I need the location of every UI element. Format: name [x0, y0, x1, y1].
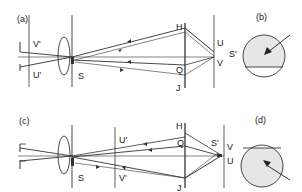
label-s: S	[78, 173, 84, 183]
label-u: U	[217, 38, 224, 48]
ray	[20, 52, 72, 57]
ray	[20, 156, 72, 161]
ray	[185, 28, 214, 52]
arrow-icon	[148, 148, 152, 152]
ray	[72, 157, 185, 178]
label-h: H	[176, 121, 183, 131]
label-u-prime: U'	[33, 70, 41, 80]
ray	[75, 163, 185, 178]
label-u-prime: U'	[119, 135, 127, 145]
label-q: Q	[176, 65, 183, 75]
ray	[72, 146, 185, 157]
label-v: V	[217, 58, 223, 68]
label-u: U	[227, 156, 234, 166]
panel-a: (a) V' U' S H Q J	[17, 14, 237, 93]
panel-a-label: (a)	[17, 14, 28, 24]
ray	[20, 148, 72, 156]
source-s	[71, 158, 74, 166]
label-v-prime: V'	[33, 39, 41, 49]
ray	[185, 156, 221, 178]
label-v: V	[227, 142, 233, 152]
label-q: Q	[177, 138, 184, 148]
panel-d: (d)	[241, 115, 290, 187]
arrow-icon	[96, 165, 100, 169]
label-s-prime: S'	[211, 138, 219, 148]
arrow-icon	[127, 60, 131, 64]
panel-b-label: (b)	[256, 12, 267, 22]
ray	[185, 153, 218, 178]
ray	[185, 57, 214, 75]
label-s-prime: S'	[229, 49, 237, 59]
panel-b: (b)	[243, 12, 290, 77]
ray	[20, 57, 72, 67]
arrow-icon	[118, 49, 122, 52]
ray	[72, 28, 185, 57]
label-s: S	[78, 71, 84, 81]
focus-point	[217, 154, 222, 157]
label-j: J	[176, 83, 181, 93]
ray	[72, 137, 185, 156]
optics-diagram: (a) V' U' S H Q J	[0, 0, 302, 192]
ray	[185, 57, 214, 65]
arrow-icon	[143, 142, 147, 146]
panel-c-label: (c)	[19, 116, 30, 126]
label-h: H	[176, 22, 183, 32]
panel-c: (c) S U' V' H Q J S' V	[18, 116, 234, 192]
label-v-prime: V'	[119, 173, 127, 183]
arrow-icon	[120, 68, 124, 72]
panel-d-label: (d)	[255, 115, 266, 125]
ray	[185, 32, 214, 56]
label-j: J	[177, 183, 182, 192]
ray	[75, 32, 185, 60]
